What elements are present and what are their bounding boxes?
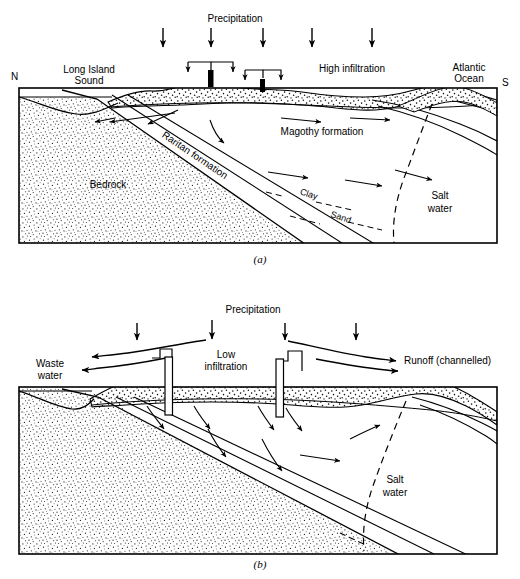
compass-north-a: N bbox=[11, 71, 18, 82]
cross-section-panel-a: N S Precipitation Long Island Sound High… bbox=[0, 0, 520, 279]
recharge-basin-shaft-1 bbox=[208, 70, 214, 87]
label-long-island-sound-line2: Sound bbox=[75, 75, 104, 86]
label-waste-water: Waste bbox=[36, 358, 64, 369]
label-runoff: Runoff (channelled) bbox=[404, 355, 491, 366]
caption-a: (a) bbox=[0, 253, 520, 265]
cross-section-panel-b: Precipitation Waste water Low infiltrati… bbox=[0, 279, 520, 579]
label-precipitation-b: Precipitation bbox=[225, 304, 280, 315]
figure-root: N S Precipitation Long Island Sound High… bbox=[0, 0, 520, 579]
label-salt-water-a-line2: water bbox=[427, 203, 453, 214]
compass-south-a: S bbox=[502, 77, 509, 88]
label-atlantic-ocean: Atlantic bbox=[453, 62, 486, 73]
recharge-basin-shaft-2 bbox=[260, 79, 265, 92]
label-salt-water-b-line2: water bbox=[382, 487, 408, 498]
label-low-infiltration-line2: infiltration bbox=[205, 361, 248, 372]
label-high-infiltration: High infiltration bbox=[319, 63, 385, 74]
panel-a-drawing: N S Precipitation Long Island Sound High… bbox=[0, 0, 520, 279]
label-bedrock: Bedrock bbox=[90, 179, 128, 190]
label-atlantic-ocean-line2: Ocean bbox=[454, 73, 483, 84]
label-salt-water-a: Salt bbox=[431, 190, 448, 201]
label-magothy-formation: Magothy formation bbox=[281, 126, 364, 137]
label-waste-water-line2: water bbox=[37, 370, 63, 381]
panel-b-drawing: Precipitation Waste water Low infiltrati… bbox=[0, 279, 520, 579]
label-low-infiltration: Low bbox=[217, 349, 236, 360]
label-salt-water-b: Salt bbox=[386, 474, 403, 485]
label-long-island-sound: Long Island bbox=[63, 64, 115, 75]
label-precipitation-a: Precipitation bbox=[207, 13, 262, 24]
caption-b: (b) bbox=[0, 558, 520, 570]
